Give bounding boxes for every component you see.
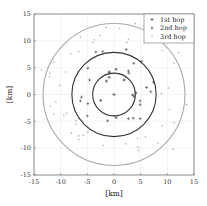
data-point (161, 125, 163, 127)
data-point (135, 23, 137, 25)
data-point (172, 148, 174, 150)
data-point (138, 149, 140, 151)
data-point (186, 104, 188, 106)
x-tick-label: 5 (139, 178, 143, 186)
y-tick-label: -5 (25, 118, 31, 126)
data-point (169, 109, 171, 111)
data-point (65, 71, 67, 73)
y-tick-label: 10 (23, 37, 31, 45)
y-tick-label: -15 (21, 171, 31, 179)
y-tick-label: 5 (27, 64, 31, 72)
legend-label: 2nd hop (160, 24, 187, 32)
y-axis-label: [km] (5, 86, 14, 104)
data-point (75, 123, 77, 125)
data-point (137, 138, 139, 140)
data-point (50, 105, 52, 107)
data-point (78, 135, 80, 137)
data-point (105, 27, 107, 29)
data-point (41, 69, 43, 71)
data-point (134, 91, 137, 94)
data-point (128, 38, 130, 40)
x-tick-label: -5 (84, 178, 90, 186)
data-point (63, 115, 65, 117)
data-point (82, 134, 84, 136)
data-point (168, 87, 170, 89)
data-point (173, 63, 175, 65)
y-tick-label: -10 (21, 144, 31, 152)
x-tick-label: 15 (190, 178, 198, 186)
data-point (126, 42, 128, 44)
x-tick-label: 0 (112, 178, 116, 186)
legend-label: 1st hop (160, 16, 184, 24)
data-point (125, 143, 127, 145)
legend-label: 3rd hop (160, 33, 186, 41)
data-point (55, 101, 57, 103)
data-point (145, 136, 147, 138)
data-point (161, 93, 163, 95)
data-point (53, 61, 55, 63)
data-point (49, 72, 51, 74)
data-point (157, 143, 159, 145)
legend: 1st hop2nd hop3rd hop (144, 14, 194, 43)
data-point (53, 114, 55, 116)
data-point (162, 50, 164, 52)
data-point (178, 52, 180, 54)
data-point (49, 76, 51, 78)
data-point (113, 93, 116, 96)
data-point (137, 146, 139, 148)
data-point (103, 145, 105, 147)
x-axis-label: [km] (105, 189, 123, 198)
data-point (78, 51, 80, 53)
hop-range-scatter-chart: -15-10-5051015 151050-5-10-15 [km] [km] … (0, 0, 207, 206)
data-point (70, 53, 72, 55)
x-tick-label: -10 (55, 178, 65, 186)
data-point (75, 120, 77, 122)
data-point (92, 42, 94, 44)
data-point (87, 131, 89, 133)
data-point (66, 112, 68, 114)
data-point (93, 39, 95, 41)
data-point (173, 122, 175, 124)
data-point (78, 139, 80, 141)
y-tick-label: 0 (27, 91, 31, 99)
data-point (71, 132, 73, 134)
data-point (59, 85, 61, 87)
data-point (99, 35, 101, 37)
data-point (80, 36, 82, 38)
y-tick-label: 15 (23, 10, 31, 18)
x-tick-label: 10 (163, 178, 171, 186)
data-point (119, 28, 121, 30)
